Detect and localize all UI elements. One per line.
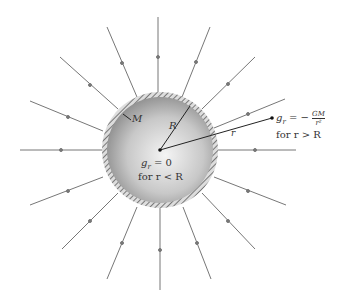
inside-equation: gr = 0 [141, 157, 172, 171]
center-point [158, 148, 162, 152]
outside-equation: gr = − GM r² [276, 110, 325, 127]
inside-condition: for r < R [138, 171, 183, 182]
gravity-field-diagram [0, 0, 345, 301]
outside-condition: for r > R [276, 129, 321, 140]
distance-label: r [231, 128, 235, 138]
mass-label: M [132, 113, 142, 124]
field-point [270, 116, 274, 120]
radius-label: R [169, 120, 177, 131]
